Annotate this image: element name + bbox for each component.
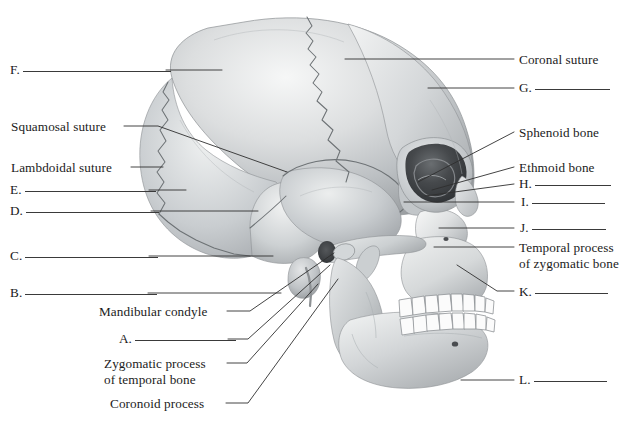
callout-G: G. — [519, 80, 610, 96]
callout-label-zygomatic-process-of-temporal-bone: Zygomatic processof temporal bone — [104, 356, 206, 387]
callout-label-mandibular-condyle: Mandibular condyle — [99, 304, 207, 320]
answer-blank-J[interactable] — [532, 229, 606, 230]
answer-blank-F[interactable] — [23, 71, 171, 72]
answer-blank-E[interactable] — [25, 191, 156, 192]
answer-blank-L[interactable] — [534, 381, 607, 382]
callout-H: H. — [519, 176, 611, 192]
callout-C: C. — [10, 248, 158, 264]
callout-letter-H: H. — [519, 176, 532, 191]
callout-label-layer: F.Squamosal sutureLambdoidal sutureE.D.C… — [0, 0, 635, 425]
callout-label-coronoid-process: Coronoid process — [110, 396, 204, 412]
callout-letter-E: E. — [10, 182, 22, 197]
callout-label-squamosal-suture: Squamosal suture — [11, 119, 106, 135]
callout-mandibular-condyle: Mandibular condyle — [99, 304, 207, 320]
callout-K: K. — [519, 284, 608, 300]
callout-coronoid-process: Coronoid process — [110, 396, 204, 412]
callout-letter-D: D. — [10, 203, 23, 218]
callout-zygomatic-process-of-temporal-bone: Zygomatic processof temporal bone — [104, 356, 206, 387]
callout-F: F. — [10, 62, 171, 78]
callout-letter-G: G. — [519, 80, 532, 95]
callout-letter-K: K. — [519, 284, 532, 299]
callout-letter-A: A. — [119, 331, 132, 346]
answer-blank-I[interactable] — [532, 203, 605, 204]
callout-sphenoid-bone: Sphenoid bone — [519, 125, 599, 141]
answer-blank-G[interactable] — [535, 89, 610, 90]
callout-letter-F: F. — [10, 62, 20, 77]
callout-E: E. — [10, 182, 156, 198]
answer-blank-H[interactable] — [535, 185, 611, 186]
callout-D: D. — [10, 203, 159, 219]
answer-blank-A[interactable] — [135, 340, 236, 341]
callout-letter-C: C. — [10, 248, 22, 263]
callout-letter-L: L. — [519, 372, 531, 387]
callout-squamosal-suture: Squamosal suture — [11, 119, 106, 135]
answer-blank-B[interactable] — [25, 294, 157, 295]
callout-A: A. — [119, 331, 236, 347]
callout-ethmoid-bone: Ethmoid bone — [519, 160, 595, 176]
callout-label-line2-temporal-process-of-zygomatic-bone: of zygomatic bone — [519, 256, 619, 272]
callout-label-lambdoidal-suture: Lambdoidal suture — [11, 160, 112, 176]
callout-temporal-process-of-zygomatic-bone: Temporal processof zygomatic bone — [519, 240, 619, 271]
callout-label-line2-zygomatic-process-of-temporal-bone: of temporal bone — [104, 372, 206, 388]
skull-labeling-figure: F.Squamosal sutureLambdoidal sutureE.D.C… — [0, 0, 635, 425]
callout-lambdoidal-suture: Lambdoidal suture — [11, 160, 112, 176]
answer-blank-C[interactable] — [25, 257, 158, 258]
callout-J: J. — [520, 220, 606, 236]
callout-label-ethmoid-bone: Ethmoid bone — [519, 160, 595, 176]
callout-I: I. — [521, 194, 605, 210]
callout-label-coronal-suture: Coronal suture — [519, 52, 598, 68]
callout-coronal-suture: Coronal suture — [519, 52, 598, 68]
callout-label-sphenoid-bone: Sphenoid bone — [519, 125, 599, 141]
callout-label-temporal-process-of-zygomatic-bone: Temporal processof zygomatic bone — [519, 240, 619, 271]
callout-letter-J: J. — [520, 220, 529, 235]
answer-blank-K[interactable] — [535, 293, 608, 294]
callout-B: B. — [10, 285, 157, 301]
callout-L: L. — [519, 372, 607, 388]
callout-letter-I: I. — [521, 194, 529, 209]
callout-letter-B: B. — [10, 285, 22, 300]
answer-blank-D[interactable] — [26, 212, 159, 213]
